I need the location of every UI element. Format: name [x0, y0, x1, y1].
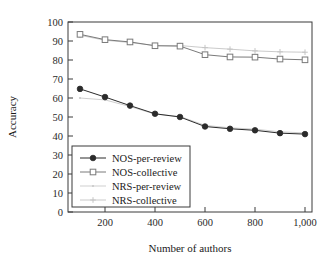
data-point-legend [90, 169, 96, 175]
data-point-0 [77, 86, 83, 92]
data-point-5 [202, 52, 208, 58]
data-point-7 [252, 128, 258, 134]
data-point-2 [127, 39, 133, 45]
data-point-2 [127, 103, 133, 109]
y-tick-label: 100 [47, 17, 63, 28]
data-point-9 [302, 131, 308, 137]
data-point-8 [277, 56, 283, 62]
x-tick-label: 800 [247, 217, 263, 228]
legend-item-label: NOS-per-review [112, 153, 182, 164]
x-tick-label: 200 [97, 217, 113, 228]
data-point-5 [202, 124, 208, 130]
data-point-0 [77, 32, 83, 38]
data-point-6 [227, 54, 233, 60]
y-tick-label: 70 [53, 74, 64, 85]
y-tick-label: 40 [53, 131, 64, 142]
legend-item-label: NOS-collective [112, 167, 178, 178]
chart-figure: 0102030405060708090100 2004006008001,000… [0, 0, 335, 261]
x-tick-label: 400 [147, 217, 163, 228]
data-point-3 [152, 111, 158, 117]
x-axis-title: Number of authors [148, 242, 231, 254]
legend-item-label: NRS-collective [112, 195, 177, 206]
x-tick-label: 1,000 [293, 217, 317, 228]
y-tick-label: 20 [53, 169, 64, 180]
data-point-4 [177, 43, 183, 49]
data-point-1 [102, 37, 108, 43]
y-tick-label: 80 [53, 55, 64, 66]
data-point-7 [252, 54, 258, 60]
legend-item-label: NRS-per-review [112, 181, 182, 192]
data-point-6 [227, 126, 233, 132]
y-tick-label: 30 [53, 150, 64, 161]
data-point-legend [90, 155, 96, 161]
accuracy-line-chart: 0102030405060708090100 2004006008001,000… [0, 0, 335, 261]
data-point-0 [79, 97, 81, 99]
data-point-8 [277, 130, 283, 136]
y-axis-title: Accuracy [6, 95, 18, 138]
y-tick-label: 90 [53, 36, 64, 47]
data-point-1 [102, 94, 108, 100]
y-tick-label: 0 [58, 207, 63, 218]
x-tick-label: 600 [197, 217, 213, 228]
data-point-9 [302, 57, 308, 63]
data-point-3 [152, 43, 158, 49]
y-tick-label: 10 [53, 188, 64, 199]
data-point-legend [92, 185, 94, 187]
y-tick-label: 60 [53, 93, 64, 104]
data-point-4 [177, 114, 183, 120]
chart-legend: NOS-per-reviewNOS-collectiveNRS-per-revi… [72, 146, 190, 207]
y-tick-label: 50 [53, 112, 64, 123]
